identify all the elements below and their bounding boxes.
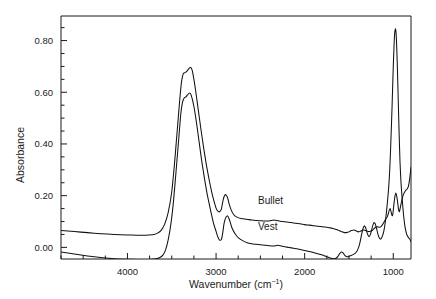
x-tick-labels: 4000300020001000 xyxy=(117,266,404,277)
spectrum-line-vest xyxy=(61,29,411,260)
spectrum-line-bullet xyxy=(61,67,411,235)
y-axis-title: Absorbance xyxy=(14,127,26,183)
y-tick-label: 0.40 xyxy=(35,138,54,149)
x-tick-label: 1000 xyxy=(383,266,404,277)
y-tick-label: 0.20 xyxy=(35,190,54,201)
x-axis-title: Wavenumber (cm−1) xyxy=(189,278,283,290)
spectrum-traces xyxy=(61,29,411,260)
y-tick-labels: 0.000.200.400.600.80 xyxy=(35,35,54,253)
y-tick-label: 0.00 xyxy=(35,242,54,253)
x-tick-label: 4000 xyxy=(117,266,138,277)
spectrum-plot-canvas: 4000300020001000 0.000.200.400.600.80 Ab… xyxy=(0,0,436,299)
axis-ticks xyxy=(61,28,393,259)
x-tick-label: 3000 xyxy=(205,266,226,277)
x-axis-title-superscript: −1 xyxy=(271,278,279,285)
x-tick-label: 2000 xyxy=(294,266,315,277)
y-tick-label: 0.80 xyxy=(35,35,54,46)
x-axis-title-tail: ) xyxy=(279,278,283,290)
plot-frame xyxy=(61,16,411,259)
y-tick-label: 0.60 xyxy=(35,87,54,98)
ftir-spectrum-figure: 4000300020001000 0.000.200.400.600.80 Ab… xyxy=(0,0,436,299)
series-annotation-bullet: Bullet xyxy=(258,195,283,206)
series-annotation-vest: Vest xyxy=(258,221,278,232)
x-axis-title-base: Wavenumber (cm xyxy=(189,278,272,290)
plot-border xyxy=(61,16,411,259)
